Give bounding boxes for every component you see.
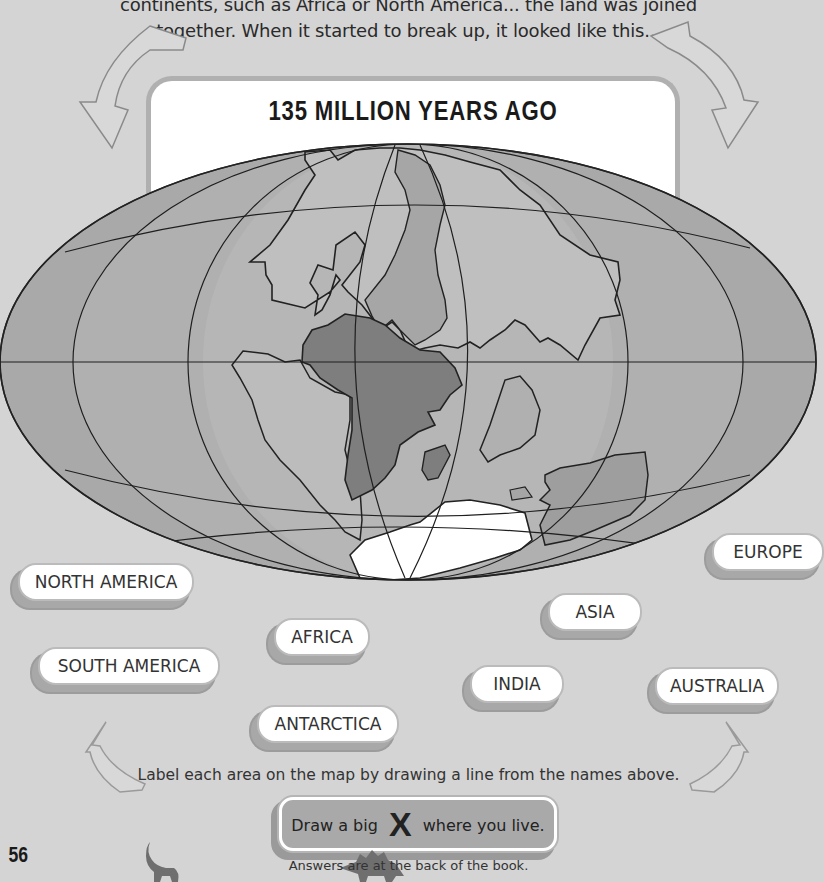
answers-note: Answers are at the back of the book. [0, 858, 817, 873]
page-number: 56 [8, 842, 28, 868]
